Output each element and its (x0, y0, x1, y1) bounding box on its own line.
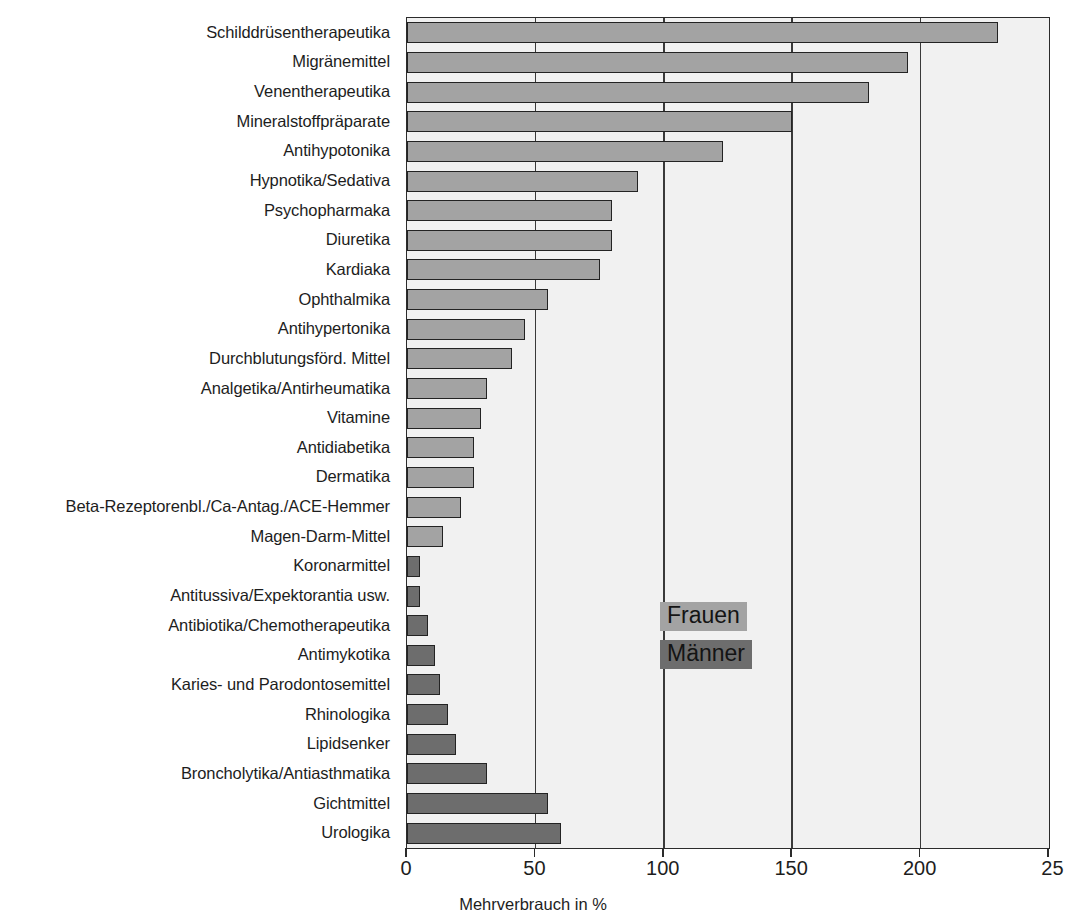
category-label: Karies- und Parodontosemittel (0, 676, 390, 693)
category-label: Schilddrüsentherapeutika (0, 24, 390, 41)
bar (407, 52, 908, 73)
category-label: Magen-Darm-Mittel (0, 528, 390, 545)
x-tick-label: 25 (1041, 858, 1063, 878)
category-label: Beta-Rezeptorenbl./Ca-Antag./ACE-Hemmer (0, 498, 390, 515)
bar (407, 230, 612, 251)
bar (407, 763, 487, 784)
category-label: Lipidsenker (0, 735, 390, 752)
chart-legend: Frauen Männer (660, 602, 752, 678)
category-label: Antihypotonika (0, 142, 390, 159)
bar (407, 615, 428, 636)
gridline (920, 18, 922, 848)
x-tick-label: 0 (400, 858, 411, 878)
legend-item-frauen: Frauen (660, 602, 747, 631)
bar (407, 526, 443, 547)
category-label: Antibiotika/Chemotherapeutika (0, 617, 390, 634)
category-label: Diuretika (0, 231, 390, 248)
bar (407, 823, 561, 844)
category-label: Analgetika/Antirheumatika (0, 380, 390, 397)
x-tick (1047, 848, 1049, 857)
legend-item-maenner: Männer (660, 640, 752, 669)
category-label: Urologika (0, 824, 390, 841)
bar (407, 259, 600, 280)
bar (407, 319, 525, 340)
bar (407, 200, 612, 221)
category-label: Koronarmittel (0, 557, 390, 574)
category-label: Ophthalmika (0, 291, 390, 308)
x-tick (662, 848, 664, 857)
chart-figure: SchilddrüsentherapeutikaMigränemittelVen… (0, 0, 1066, 924)
bar (407, 141, 723, 162)
plot-area (406, 17, 1050, 849)
category-label-column: SchilddrüsentherapeutikaMigränemittelVen… (0, 17, 398, 847)
category-label: Durchblutungsförd. Mittel (0, 350, 390, 367)
bar (407, 22, 998, 43)
category-label: Broncholytika/Antiasthmatika (0, 765, 390, 782)
x-tick-label: 150 (775, 858, 808, 878)
bar (407, 674, 440, 695)
bar (407, 793, 548, 814)
x-tick-label: 100 (646, 858, 679, 878)
x-tick (919, 848, 921, 857)
bar (407, 82, 869, 103)
category-label: Migränemittel (0, 53, 390, 70)
category-label: Hypnotika/Sedativa (0, 172, 390, 189)
category-label: Mineralstoffpräparate (0, 113, 390, 130)
bar (407, 171, 638, 192)
category-label: Antitussiva/Expektorantia usw. (0, 587, 390, 604)
bar (407, 378, 487, 399)
bar (407, 111, 792, 132)
x-tick (405, 848, 407, 857)
x-axis-title: Mehrverbrauch in % (0, 895, 1066, 914)
x-tick-label: 50 (523, 858, 545, 878)
bar (407, 348, 512, 369)
x-tick (790, 848, 792, 857)
bar (407, 497, 461, 518)
category-label: Antihypertonika (0, 320, 390, 337)
category-label: Vitamine (0, 409, 390, 426)
bar (407, 408, 481, 429)
category-label: Gichtmittel (0, 795, 390, 812)
bar (407, 645, 435, 666)
bar (407, 704, 448, 725)
category-label: Kardiaka (0, 261, 390, 278)
category-label: Rhinologika (0, 706, 390, 723)
gridline (791, 18, 793, 848)
bar (407, 467, 474, 488)
bar (407, 556, 420, 577)
category-label: Dermatika (0, 468, 390, 485)
x-tick-label: 200 (903, 858, 936, 878)
category-label: Psychopharmaka (0, 202, 390, 219)
bar (407, 289, 548, 310)
plot-inner (407, 18, 1049, 848)
category-label: Antidiabetika (0, 439, 390, 456)
x-tick (534, 848, 536, 857)
category-label: Antimykotika (0, 646, 390, 663)
bar (407, 437, 474, 458)
category-label: Venentherapeutika (0, 83, 390, 100)
bar (407, 586, 420, 607)
bar (407, 734, 456, 755)
